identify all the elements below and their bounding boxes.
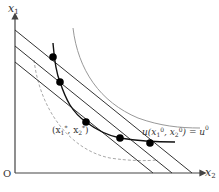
optimum-label: (x1*, x2*) — [52, 124, 89, 136]
utility-label: u(x10, x20) = u0 — [142, 124, 209, 138]
budget-line-low — [15, 62, 153, 173]
diagram-canvas: x1 x2 O (x1*, x2*) u(x10, x20) = u0 — [0, 0, 219, 192]
y-axis-label: x1 — [8, 2, 19, 16]
budget-line-high — [15, 30, 192, 173]
point-2 — [56, 78, 64, 86]
origin-label: O — [3, 168, 11, 179]
point-4 — [116, 134, 124, 142]
budget-line-mid — [15, 46, 172, 173]
x-axis-label: x2 — [205, 166, 216, 180]
dashed-curve — [34, 60, 158, 161]
indifference-curve — [73, 28, 200, 128]
point-1 — [49, 53, 57, 61]
point-5 — [146, 139, 154, 147]
